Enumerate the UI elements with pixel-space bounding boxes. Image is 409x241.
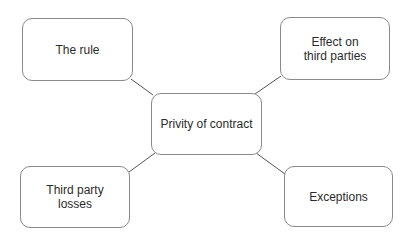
node-exceptions: Exceptions [284, 166, 393, 227]
node-label: Effect on third parties [304, 35, 367, 63]
node-third-party-losses: Third party losses [20, 166, 130, 228]
edge-center-rule [131, 79, 153, 95]
edge-center-losses [129, 153, 155, 172]
node-the-rule: The rule [22, 18, 133, 81]
node-effect-on-third-parties: Effect on third parties [280, 17, 390, 80]
edge-center-exceptions [256, 153, 285, 174]
node-label: Privity of contract [160, 117, 252, 131]
node-label: Third party losses [46, 183, 103, 211]
node-label: The rule [55, 43, 99, 57]
node-privity-of-contract: Privity of contract [151, 93, 262, 155]
edge-center-effect [255, 76, 281, 94]
node-label: Exceptions [309, 190, 368, 204]
